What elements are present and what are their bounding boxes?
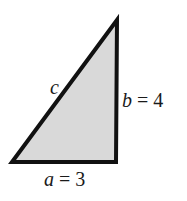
side-b-label: b = 4	[122, 89, 163, 111]
triangle-diagram: c b = 4 a = 3	[0, 0, 187, 201]
side-a-label: a = 3	[44, 168, 85, 190]
hypotenuse-label: c	[50, 76, 59, 98]
right-triangle	[12, 20, 117, 162]
